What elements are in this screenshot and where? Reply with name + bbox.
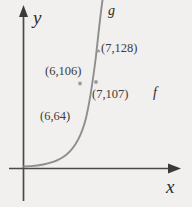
data-point-6-106 — [78, 82, 82, 86]
y-axis — [19, 5, 28, 201]
function-label-g: g — [108, 4, 115, 18]
graph-figure: y x g f (7,128) (6,106) (7,107) (6,64) — [0, 0, 192, 207]
label-6-64: (6,64) — [40, 110, 70, 123]
data-point-7-107 — [94, 80, 98, 84]
y-axis-arrowhead — [19, 5, 28, 17]
graph-canvas — [0, 0, 192, 207]
x-axis-label: x — [166, 177, 174, 196]
label-7-107: (7,107) — [92, 88, 128, 101]
label-6-106: (6,106) — [45, 65, 81, 78]
label-7-128: (7,128) — [101, 42, 137, 55]
y-axis-label: y — [33, 8, 41, 27]
data-point-7-128 — [97, 49, 100, 52]
x-axis-arrowhead — [168, 164, 181, 174]
function-label-f: f — [153, 86, 157, 100]
